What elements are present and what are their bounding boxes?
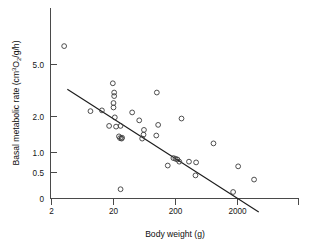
data-point	[252, 177, 257, 182]
axis-lines	[51, 8, 299, 199]
data-point	[231, 190, 236, 195]
y-tick-label-2: 2.0	[33, 113, 45, 122]
y-origin-label: 0	[39, 195, 44, 204]
data-point	[137, 118, 142, 123]
x-tick-labels: 2 20 200 2000	[49, 207, 247, 216]
data-point	[156, 122, 161, 127]
y-tick-label-0-5: 0.5	[33, 169, 45, 178]
y-tick-label-5: 5.0	[33, 61, 45, 70]
x-axis-title: Body weight (g)	[145, 229, 205, 239]
data-points-layer	[62, 44, 257, 195]
y-tick-labels: 5.0 2.0 1.0 0.5 0	[33, 61, 45, 204]
data-point	[179, 116, 184, 121]
data-point	[130, 110, 135, 115]
y-axis-ticks	[51, 65, 57, 173]
data-point	[154, 133, 159, 138]
data-point	[107, 124, 112, 129]
data-point	[187, 159, 192, 164]
x-tick-label-200: 200	[169, 207, 183, 216]
data-point	[110, 81, 115, 86]
data-point	[193, 173, 198, 178]
y-tick-label-1: 1.0	[33, 149, 45, 158]
data-point	[154, 90, 159, 95]
data-point	[118, 124, 123, 129]
x-axis-ticks	[52, 199, 299, 205]
scatter-plot-figure: 5.0 2.0 1.0 0.5 0 2 20 200 2000 Body wei…	[0, 0, 314, 249]
y-axis-title-suffix: /g/h)	[11, 40, 21, 57]
data-point	[236, 164, 241, 169]
x-tick-label-20: 20	[109, 207, 119, 216]
data-point	[114, 124, 119, 129]
data-point	[194, 160, 199, 165]
x-tick-label-2: 2	[49, 207, 54, 216]
data-point	[165, 163, 170, 168]
plot-canvas: 5.0 2.0 1.0 0.5 0 2 20 200 2000 Body wei…	[0, 0, 314, 249]
y-axis-title: Basal metabolic rate (cm3O2/g/h)	[11, 40, 22, 165]
data-point	[142, 127, 147, 132]
svg-text:Basal metabolic rate (cm3O2/g/: Basal metabolic rate (cm3O2/g/h)	[11, 40, 22, 165]
data-point	[88, 109, 93, 114]
data-point	[112, 94, 117, 99]
data-point	[118, 187, 123, 192]
data-point	[211, 141, 216, 146]
y-axis-title-prefix: Basal metabolic rate (cm	[11, 71, 21, 166]
x-tick-label-2000: 2000	[228, 207, 247, 216]
regression-line	[67, 89, 258, 212]
data-point	[62, 44, 67, 49]
